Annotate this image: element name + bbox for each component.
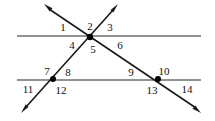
angle-label-10: 10 — [159, 66, 170, 77]
angle-label-3: 3 — [107, 22, 113, 33]
angle-label-1: 1 — [60, 22, 66, 33]
angle-label-2: 2 — [87, 21, 93, 32]
angle-label-8: 8 — [65, 67, 71, 78]
vertex-top-dot — [87, 34, 93, 40]
angle-label-4: 4 — [69, 40, 75, 51]
geometry-figure: 1 2 3 4 5 6 7 8 9 10 11 12 13 14 — [0, 0, 215, 121]
vertex-bottom-right-dot — [155, 76, 161, 82]
angle-label-14: 14 — [182, 84, 193, 95]
angle-label-11: 11 — [23, 84, 34, 95]
angle-label-12: 12 — [56, 85, 67, 96]
angle-label-5: 5 — [90, 44, 96, 55]
vertex-bottom-left-dot — [50, 76, 56, 82]
angle-label-13: 13 — [147, 85, 158, 96]
transversal-falling-line — [49, 9, 196, 108]
angle-label-7: 7 — [44, 66, 50, 77]
figure-canvas — [0, 0, 215, 121]
angle-label-9: 9 — [128, 67, 134, 78]
angle-label-6: 6 — [117, 40, 123, 51]
